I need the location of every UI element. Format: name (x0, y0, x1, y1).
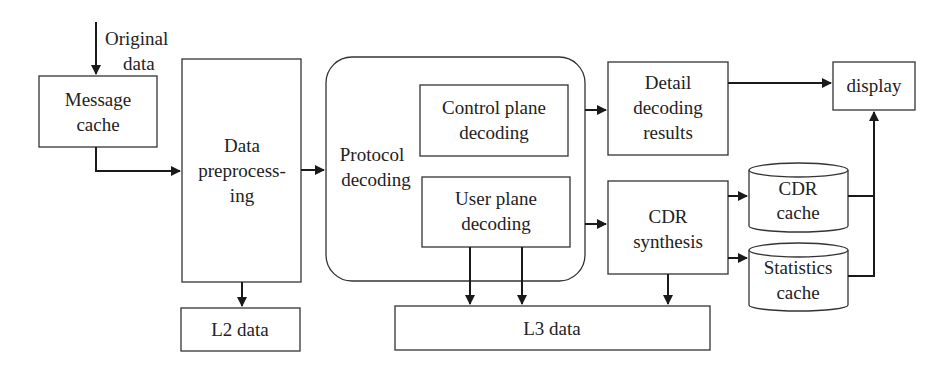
statistics-cache-label-line1: Statistics (764, 257, 833, 278)
l2-data-node: L2 data (181, 308, 300, 351)
edge-message-cache-to-preprocessing (96, 147, 180, 171)
data-preprocessing-node: Data preprocess- ing (182, 59, 301, 282)
message-cache-node: Message cache (39, 76, 157, 147)
protocol-decoding-label-line2: decoding (341, 169, 411, 190)
detail-results-label-line2: decoding (633, 97, 703, 118)
edge-statistics-cache-to-display (848, 112, 874, 276)
original-data-label-line1: Original (105, 28, 168, 49)
control-plane-decoding-node: Control plane decoding (420, 85, 568, 156)
l3-data-node: L3 data (395, 306, 710, 350)
statistics-cache-label-line2: cache (776, 282, 819, 303)
cdr-synthesis-label-line1: CDR (648, 206, 687, 227)
system-architecture-diagram: Original data Message cache Data preproc… (0, 0, 949, 367)
control-plane-label-line2: decoding (459, 122, 529, 143)
data-preprocessing-label-line1: Data (224, 135, 260, 156)
user-plane-decoding-node: User plane decoding (422, 177, 570, 247)
detail-results-label-line3: results (643, 122, 693, 143)
detail-decoding-results-node: Detail decoding results (608, 62, 728, 155)
protocol-decoding-label-line1: Protocol (340, 144, 404, 165)
control-plane-label-line1: Control plane (442, 97, 546, 118)
data-preprocessing-label-line2: preprocess- (198, 160, 286, 181)
user-plane-label-line2: decoding (461, 213, 531, 234)
display-label: display (847, 75, 902, 96)
data-preprocessing-label-line3: ing (230, 185, 255, 206)
l2-data-label: L2 data (211, 319, 269, 340)
l3-data-label: L3 data (523, 318, 581, 339)
cdr-synthesis-label-line2: synthesis (633, 231, 703, 252)
detail-results-label-line1: Detail (645, 72, 691, 93)
message-cache-label-line2: cache (76, 114, 119, 135)
cdr-synthesis-node: CDR synthesis (608, 181, 728, 274)
cdr-cache-label-line2: cache (776, 202, 819, 223)
original-data-input: Original data (96, 22, 168, 74)
cdr-cache-node: CDR cache (749, 163, 848, 232)
message-cache-label-line1: Message (65, 89, 131, 110)
display-node: display (833, 62, 915, 110)
statistics-cache-node: Statistics cache (749, 243, 848, 311)
user-plane-label-line1: User plane (455, 188, 537, 209)
cdr-cache-label-line1: CDR (778, 178, 817, 199)
original-data-label-line2: data (123, 53, 155, 74)
